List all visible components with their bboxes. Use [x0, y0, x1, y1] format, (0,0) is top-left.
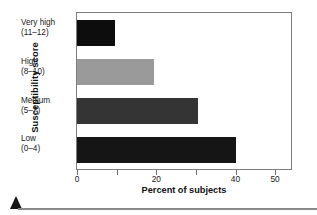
x-axis-tick-label: 50	[270, 174, 279, 184]
category-label-line1: Low	[21, 134, 75, 144]
category-label-line1: Medium	[21, 96, 75, 106]
x-axis-tick-label: 20	[152, 174, 161, 184]
category-label: High (8–10)	[21, 57, 75, 76]
bar-very-high	[77, 20, 115, 46]
category-label: Very high (11–12)	[21, 18, 75, 37]
category-label-line2: (0–4)	[21, 144, 75, 154]
category-label-line2: (8–10)	[21, 67, 75, 77]
x-axis-tick-label: 40	[231, 174, 240, 184]
bar-high	[77, 59, 154, 85]
category-label-line1: High	[21, 57, 75, 67]
bar-chart-figure: Susceptibility score Very high (11–12) H…	[0, 0, 317, 215]
category-label-line1: Very high	[21, 18, 75, 28]
category-label-line2: (11–12)	[21, 28, 75, 38]
plot-inner	[77, 13, 291, 169]
bar-medium	[77, 98, 198, 124]
y-axis-category-labels: Very high (11–12) High (8–10) Medium (5–…	[22, 12, 76, 170]
category-label: Low (0–4)	[21, 134, 75, 153]
x-axis-tick-label: 0	[75, 174, 80, 184]
category-label: Medium (5–7)	[21, 96, 75, 115]
plot-area	[76, 12, 292, 170]
category-label-line2: (5–7)	[21, 106, 75, 116]
x-axis-title: Percent of subjects	[76, 185, 292, 195]
bar-low	[77, 137, 236, 163]
footer-divider	[18, 208, 317, 210]
